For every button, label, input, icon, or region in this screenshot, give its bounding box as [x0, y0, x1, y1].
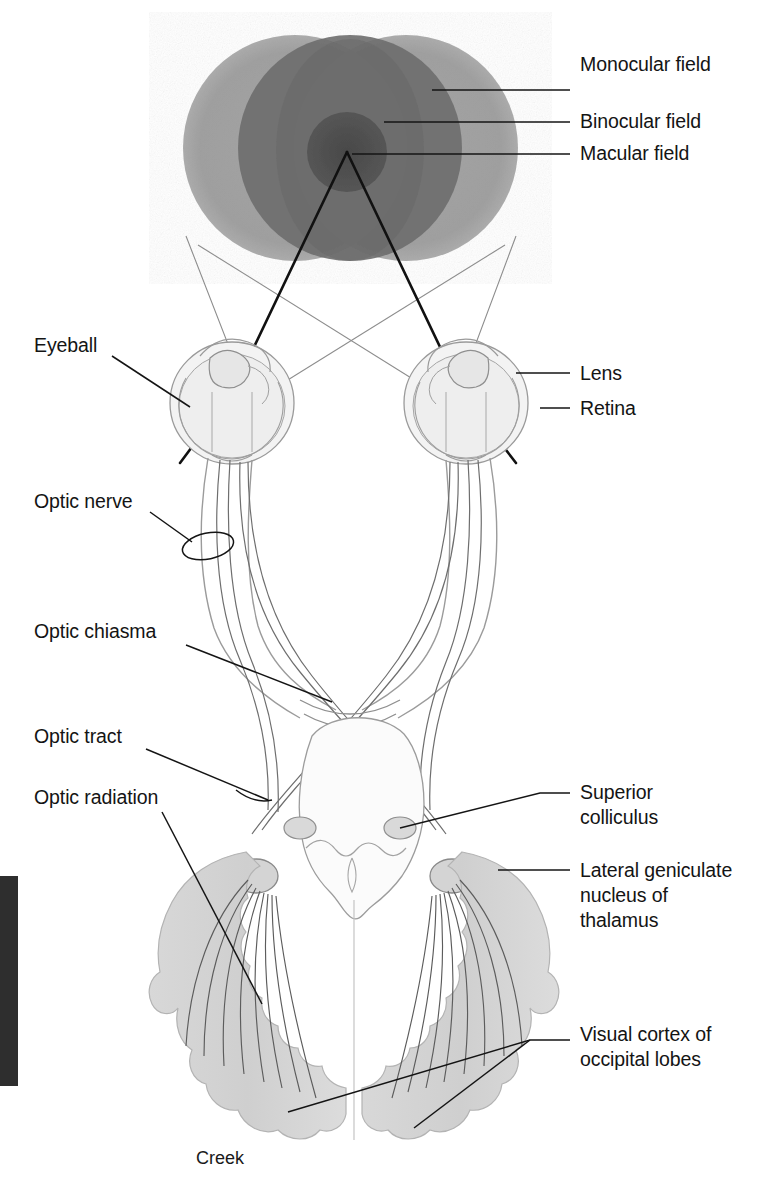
leader-optic-tract [146, 749, 268, 800]
label-superior-colliculus: Superior colliculus [580, 780, 658, 830]
figure-page: Monocular field Binocular field Macular … [0, 0, 769, 1201]
label-optic-radiation: Optic radiation [34, 785, 158, 810]
optic-nerve-marker-ellipse [180, 528, 236, 564]
label-eyeball: Eyeball [34, 333, 97, 358]
eyeball-left [170, 339, 294, 464]
label-macular-field: Macular field [580, 141, 689, 166]
optic-nerve-right-sheath-inner [362, 460, 450, 710]
artist-signature: Creek [196, 1148, 244, 1169]
visual-field-group [183, 35, 518, 261]
midbrain [284, 718, 424, 919]
occipital-lobe-right-cortex [362, 852, 559, 1139]
superior-colliculus-left [284, 817, 316, 839]
occipital-lobe-left-cortex [149, 852, 346, 1139]
label-optic-nerve: Optic nerve [34, 489, 133, 514]
label-lens: Lens [580, 361, 622, 386]
label-optic-chiasma: Optic chiasma [34, 619, 156, 644]
leader-optic-nerve [150, 512, 192, 542]
label-retina: Retina [580, 396, 636, 421]
optic-nerve-left-sheath-inner [248, 460, 336, 710]
label-monocular-field: Monocular field [580, 52, 711, 77]
page-edge-bar [0, 876, 18, 1086]
visual-pathway-diagram [0, 0, 769, 1201]
eyeball-right [404, 339, 528, 464]
leader-superior-colliculus [400, 793, 570, 828]
label-optic-tract: Optic tract [34, 724, 122, 749]
optic-nerve-sheaths [201, 458, 497, 718]
label-binocular-field: Binocular field [580, 109, 701, 134]
label-visual-cortex: Visual cortex of occipital lobes [580, 1022, 711, 1072]
label-lateral-geniculate-nucleus: Lateral geniculate nucleus of thalamus [580, 858, 732, 933]
